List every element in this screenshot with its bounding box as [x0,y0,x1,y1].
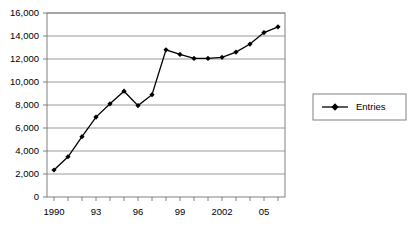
x-tick-label: 1990 [43,206,64,217]
y-tick-label: 4,000 [15,145,39,156]
legend-entry-label: Entries [356,101,386,112]
y-axis-tick-labels: 02,0004,0006,0008,00010,00012,00014,0001… [10,7,39,202]
x-tick-label: 2002 [211,206,232,217]
x-tick-label: 93 [91,206,102,217]
line-chart: 02,0004,0006,0008,00010,00012,00014,0001… [0,0,412,234]
y-tick-label: 2,000 [15,168,39,179]
x-tick-label: 96 [133,206,144,217]
y-tick-label: 12,000 [10,53,39,64]
y-tick-label: 6,000 [15,122,39,133]
y-tick-label: 0 [34,191,39,202]
y-tick-label: 16,000 [10,7,39,18]
y-tick-label: 8,000 [15,99,39,110]
y-tick-label: 14,000 [10,30,39,41]
x-tick-label: 05 [259,206,270,217]
legend: Entries [313,94,406,120]
chart-figure: 02,0004,0006,0008,00010,00012,00014,0001… [0,0,412,234]
x-tick-label: 99 [175,206,186,217]
y-tick-label: 10,000 [10,76,39,87]
